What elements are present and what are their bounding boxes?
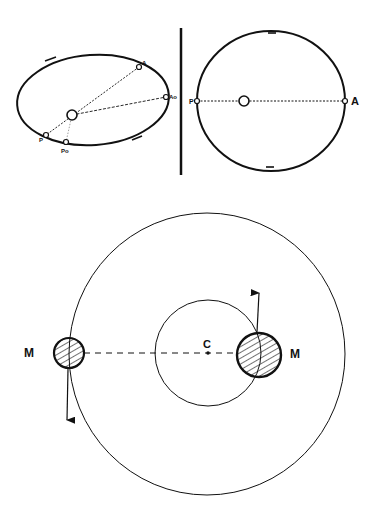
label-ao: Ao <box>169 94 177 100</box>
velocity-arrow-right-icon <box>257 293 259 332</box>
apse-line-a-p <box>46 67 139 135</box>
label-a: A <box>142 60 147 66</box>
central-body <box>67 110 77 120</box>
point-p <box>195 99 200 104</box>
diagram-canvas: A Ao P Po P A C M M <box>0 0 376 510</box>
circular-orbit-diagram: P A <box>189 31 359 171</box>
label-a: A <box>351 95 359 107</box>
label-mass-right: M <box>290 347 300 361</box>
point-ao <box>164 95 169 100</box>
central-body <box>239 96 249 106</box>
label-c: C <box>203 338 211 350</box>
point-po <box>64 140 69 145</box>
line-ao <box>72 97 166 115</box>
mass-left <box>54 338 84 368</box>
point-p <box>44 133 49 138</box>
label-p: P <box>189 98 194 105</box>
center-of-mass-point <box>206 351 210 355</box>
velocity-arrow-left-icon <box>67 369 68 420</box>
direction-arrow-top-icon <box>45 57 56 61</box>
mass-right <box>237 333 281 377</box>
two-body-diagram: C M M <box>24 213 345 495</box>
label-mass-left: M <box>24 346 34 360</box>
label-po: Po <box>61 148 69 154</box>
elliptical-orbit-diagram: A Ao P Po <box>14 50 177 154</box>
point-a <box>137 65 142 70</box>
point-a <box>343 99 348 104</box>
label-p: P <box>39 137 43 143</box>
